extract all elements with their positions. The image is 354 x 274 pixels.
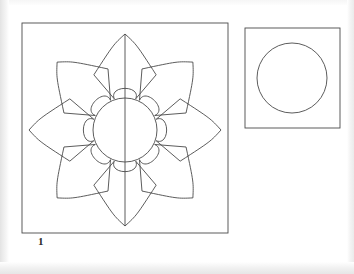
figure-artwork <box>0 0 354 274</box>
rosette-petal <box>29 99 94 161</box>
figure-number-label: 1 <box>38 236 44 247</box>
panel-inscribed-circle <box>257 43 327 113</box>
scanned-page: 1 <box>0 0 354 274</box>
circle-panel <box>245 28 340 128</box>
rosette-panel <box>22 23 228 233</box>
rosette-petal <box>156 99 221 161</box>
